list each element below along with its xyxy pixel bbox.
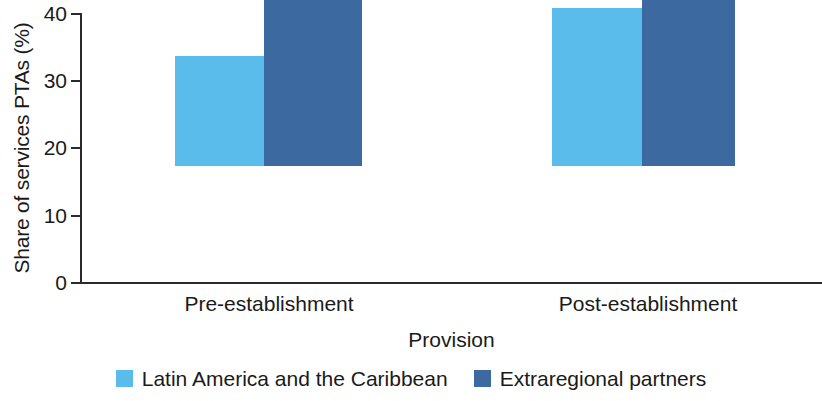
bar-pre-establishment-extraregional[interactable]	[264, 0, 362, 166]
legend-swatch-icon-extraregional	[474, 370, 491, 387]
x-category-label-pre-establishment: Pre-establishment	[139, 292, 399, 316]
x-category-label-post-establishment: Post-establishment	[513, 292, 783, 316]
legend-label-extraregional: Extraregional partners	[500, 368, 707, 389]
legend-item-lac[interactable]: Latin America and the Caribbean	[116, 368, 448, 389]
bar-pre-establishment-lac[interactable]	[175, 56, 264, 166]
legend-label-lac: Latin America and the Caribbean	[142, 368, 448, 389]
plot-area	[0, 0, 822, 284]
bar-post-establishment-lac[interactable]	[552, 8, 642, 166]
bar-chart: Share of services PTAs (%) 40 30 20 10 0…	[0, 0, 822, 401]
bar-post-establishment-extraregional[interactable]	[642, 0, 735, 166]
legend: Latin America and the Caribbean Extrareg…	[0, 368, 822, 389]
legend-item-extraregional[interactable]: Extraregional partners	[474, 368, 707, 389]
legend-swatch-icon-lac	[116, 370, 133, 387]
x-axis-title: Provision	[81, 328, 822, 352]
